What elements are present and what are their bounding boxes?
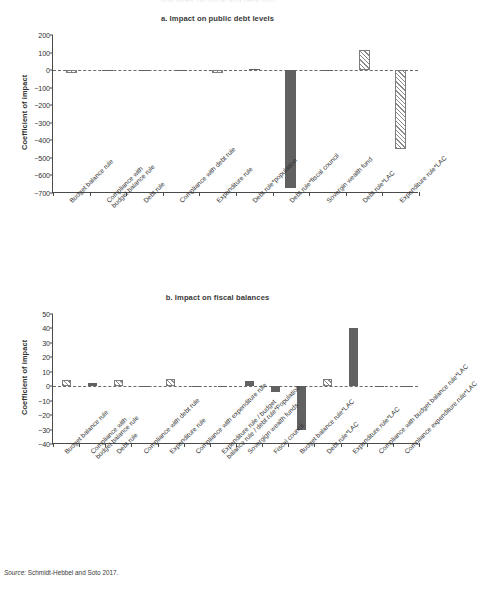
bar <box>176 70 187 71</box>
x-axis-tick-mark <box>90 192 91 196</box>
y-axis-tick-mark <box>50 357 54 358</box>
x-axis-tick-mark <box>419 192 420 196</box>
chart-a-title: a. Impact on public debt levels <box>0 14 435 23</box>
zero-reference-line <box>53 386 418 387</box>
source-label: Source: <box>4 569 26 576</box>
bar <box>249 69 260 70</box>
y-axis-title: Coefficient of impact <box>20 340 29 415</box>
bar <box>349 328 358 386</box>
chart-panel-a: a. Impact on public debt levels Coeffici… <box>0 14 435 294</box>
x-axis-tick-mark <box>53 443 54 447</box>
x-axis-tick-mark <box>163 192 164 196</box>
y-axis-tick-mark <box>50 328 54 329</box>
bar <box>359 50 370 70</box>
y-axis-tick-mark <box>50 157 54 158</box>
bar <box>401 386 410 387</box>
y-axis-tick-mark <box>50 87 54 88</box>
y-axis-tick-mark <box>50 175 54 176</box>
bar <box>102 70 113 71</box>
y-axis-tick-mark <box>50 105 54 106</box>
bar <box>62 380 71 386</box>
bar <box>375 386 384 387</box>
x-axis-tick-mark <box>382 192 383 196</box>
y-axis-tick-mark <box>50 52 54 53</box>
x-axis-tick-mark <box>346 192 347 196</box>
bar <box>395 70 406 149</box>
y-axis-tick-mark <box>50 342 54 343</box>
y-axis-tick-mark <box>50 371 54 372</box>
y-axis-tick-mark <box>50 415 54 416</box>
bar <box>323 379 332 386</box>
bar <box>114 380 123 386</box>
bar <box>166 379 175 386</box>
x-axis-tick-mark <box>273 192 274 196</box>
bar <box>139 70 150 71</box>
y-axis-tick-mark <box>50 140 54 141</box>
plot-frame: 50403020100−10−20−30−40 <box>52 314 418 444</box>
bar <box>322 70 333 71</box>
x-axis-tick-mark <box>236 192 237 196</box>
y-axis-tick-mark <box>50 122 54 123</box>
bar <box>88 383 97 386</box>
source-citation: Schmidt-Hebbel and Soto 2017. <box>28 569 119 576</box>
chart-panel-b: b. Impact on fiscal balances Coefficient… <box>0 293 435 563</box>
bar <box>212 70 223 73</box>
y-axis-tick-mark <box>50 314 54 315</box>
x-axis-tick-mark <box>309 192 310 196</box>
bar <box>218 386 227 387</box>
y-axis-title: Coefficient of impact <box>20 75 29 150</box>
chart-b-title: b. Impact on fiscal balances <box>0 293 435 302</box>
bar <box>245 381 254 386</box>
bar <box>140 386 149 387</box>
y-axis-tick-mark <box>50 35 54 36</box>
source-note: Source: Schmidt-Hebbel and Soto 2017. <box>4 569 118 576</box>
x-axis-tick-mark <box>199 192 200 196</box>
x-axis-tick-mark <box>53 192 54 196</box>
cropped-figure-header: ppy types on fiscal and debt imp <box>0 0 435 2</box>
bar <box>66 70 77 73</box>
y-axis-tick-mark <box>50 400 54 401</box>
y-axis-tick-mark <box>50 429 54 430</box>
bar <box>192 386 201 387</box>
